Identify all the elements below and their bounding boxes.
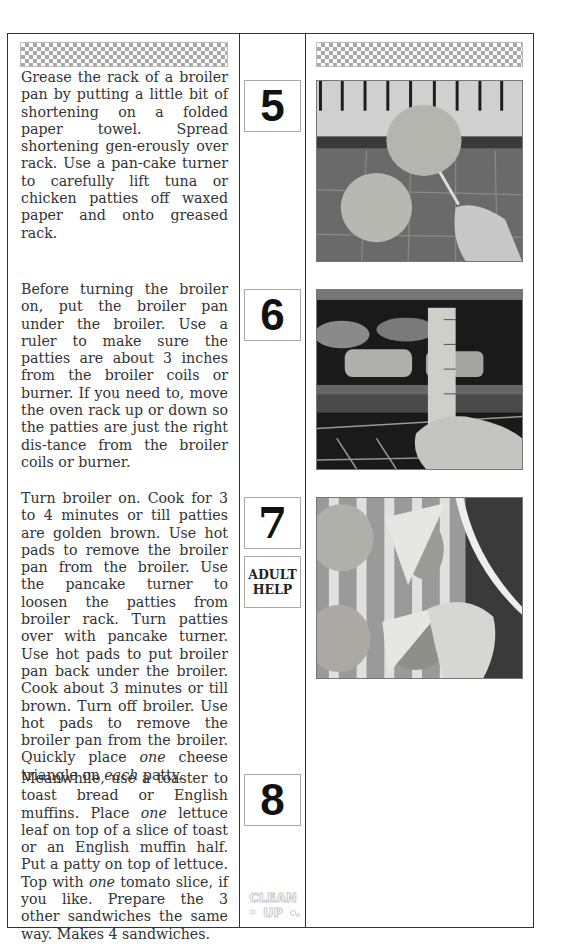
adult-help-line2: HELP: [253, 582, 293, 597]
svg-text:UP: UP: [263, 905, 283, 920]
ruler-measuring-image: [317, 290, 522, 469]
emphasis-one: one: [140, 749, 166, 765]
step-7-text: Turn broiler on. Cook for 3 to 4 minutes…: [21, 490, 228, 784]
step-6-text: Before turning the broiler on, put the b…: [21, 281, 228, 471]
column-divider-right: [305, 33, 306, 928]
step-8-text: Meanwhile, use a toaster to toast bread …: [21, 770, 228, 943]
emphasis-one: one: [89, 874, 115, 890]
step-5-text: Grease the rack of a broiler pan by putt…: [21, 69, 228, 242]
cheese-on-patties-image: [317, 498, 522, 678]
patties-on-rack-image: [317, 81, 522, 261]
step-5-photo: [316, 80, 523, 262]
checker-bar-right: [316, 42, 523, 67]
step-8-number: 8: [244, 774, 301, 826]
adult-help-badge: ADULT HELP: [244, 556, 301, 608]
column-divider-left: [239, 33, 240, 928]
step-6-number: 6: [244, 289, 301, 341]
step-7-number: 7: [244, 497, 301, 549]
emphasis-one: one: [141, 805, 167, 821]
step-7-photo: [316, 497, 523, 679]
step-7-text-part: Turn broiler on. Cook for 3 to 4 minutes…: [21, 490, 228, 765]
step-6-photo: [316, 289, 523, 470]
svg-text:CLEAN: CLEAN: [249, 890, 297, 905]
adult-help-line1: ADULT: [248, 567, 297, 582]
checker-bar-left: [20, 42, 228, 67]
step-5-number: 5: [244, 80, 301, 132]
clean-up-icon: CLEAN UP: [243, 888, 303, 920]
